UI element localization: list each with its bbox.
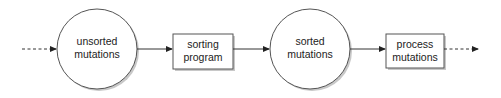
svg-text:unsorted: unsorted bbox=[77, 35, 118, 47]
svg-text:sorted: sorted bbox=[295, 35, 324, 47]
svg-text:program: program bbox=[183, 51, 222, 63]
node-sorting-label-line1: sorting bbox=[187, 38, 219, 50]
svg-text:sorting: sorting bbox=[187, 38, 219, 50]
node-process-mutations: process mutations bbox=[386, 34, 446, 70]
svg-text:mutations: mutations bbox=[392, 51, 438, 63]
node-sorted-label-line2: mutations bbox=[287, 48, 333, 60]
node-sorting-program: sorting program bbox=[173, 34, 235, 71]
node-sorted-mutations: sorted mutations bbox=[270, 9, 352, 91]
svg-text:mutations: mutations bbox=[287, 48, 333, 60]
svg-text:mutations: mutations bbox=[74, 48, 120, 60]
svg-text:process: process bbox=[397, 38, 434, 50]
flow-diagram: unsorted mutations sorting program sorte… bbox=[0, 0, 501, 98]
node-unsorted-label-line2: mutations bbox=[74, 48, 120, 60]
node-process-label-line2: mutations bbox=[392, 51, 438, 63]
node-unsorted-mutations: unsorted mutations bbox=[57, 9, 139, 91]
node-process-label-line1: process bbox=[397, 38, 434, 50]
node-sorted-label-line1: sorted bbox=[295, 35, 324, 47]
node-sorting-label-line2: program bbox=[183, 51, 222, 63]
node-unsorted-label-line1: unsorted bbox=[77, 35, 118, 47]
